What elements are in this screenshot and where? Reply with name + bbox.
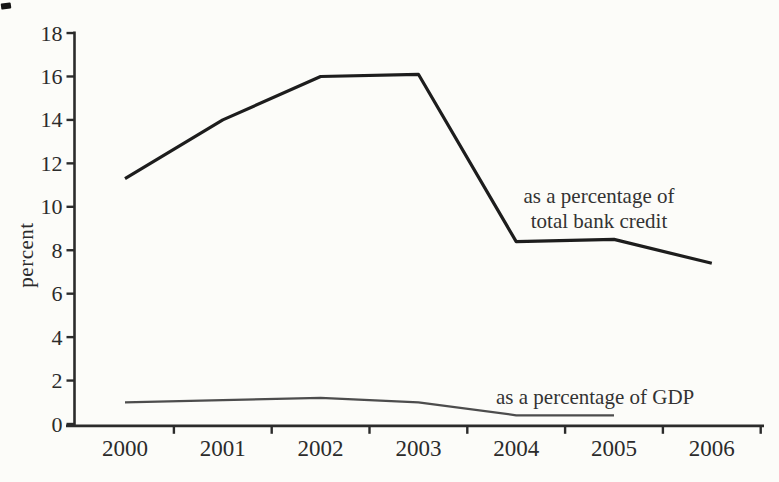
- y-axis-tick-label: 0: [52, 412, 63, 437]
- series-label-bank-credit-line2: total bank credit: [487, 209, 711, 234]
- x-axis-tick-label: 2003: [395, 436, 441, 461]
- x-axis-tick-label: 2002: [298, 436, 344, 461]
- y-axis-tick-label: 18: [41, 21, 63, 46]
- figure: 0246810121416182000200120022003200420052…: [0, 0, 779, 482]
- x-axis-tick-label: 2001: [200, 436, 246, 461]
- series-label-gdp: as a percentage of GDP: [496, 385, 694, 410]
- y-axis-tick-label: 12: [41, 151, 63, 176]
- series-label-bank-credit-line1: as a percentage of: [487, 184, 711, 209]
- y-axis-tick-label: 4: [52, 325, 63, 350]
- x-axis-tick-label: 2004: [493, 436, 540, 461]
- y-axis-tick-label: 2: [52, 368, 63, 393]
- y-axis-tick-label: 16: [41, 64, 63, 89]
- series-label-bank-credit: as a percentage of total bank credit: [487, 184, 711, 234]
- x-axis-tick-label: 2005: [591, 436, 637, 461]
- y-axis-tick-label: 14: [41, 107, 63, 132]
- y-axis-title: percent: [14, 222, 39, 287]
- y-axis-tick-label: 8: [52, 238, 63, 263]
- y-axis-tick-label: 6: [52, 281, 63, 306]
- y-axis-tick-label: 10: [41, 194, 63, 219]
- series-line-bank-credit: [125, 74, 712, 263]
- x-axis-tick-label: 2006: [689, 436, 735, 461]
- x-axis-tick-label: 2000: [102, 436, 148, 461]
